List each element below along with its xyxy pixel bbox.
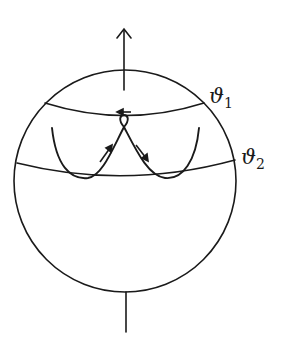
- trajectory-loop: [120, 115, 128, 127]
- latitude-theta1: [45, 103, 204, 116]
- theta2-subscript: 2: [256, 156, 265, 172]
- arrowhead-left-icon: [117, 109, 123, 115]
- label-theta2: ϑ2: [241, 147, 265, 171]
- theta2-symbol: ϑ: [241, 145, 256, 169]
- theta1-symbol: ϑ: [209, 84, 224, 108]
- arrowhead-upright-icon: [106, 145, 112, 152]
- label-theta1: ϑ1: [209, 86, 233, 110]
- theta1-subscript: 1: [224, 95, 233, 111]
- diagram-canvas: ϑ1 ϑ2: [0, 0, 282, 357]
- sphere-diagram: [0, 0, 282, 357]
- trajectory-left: [52, 127, 124, 178]
- latitude-theta2: [17, 160, 235, 176]
